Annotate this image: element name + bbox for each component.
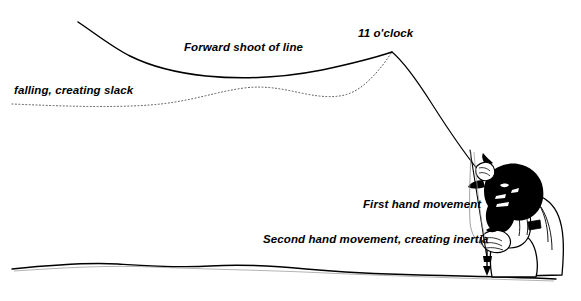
fly-line-dotted-slack [12,52,392,107]
fly-casting-diagram: Forward shoot of line 11 o'clock falling… [0,0,581,301]
ground-line-shadow [14,266,554,281]
angler-sleeve-patch [528,220,541,230]
label-first-hand-movement: First hand movement [363,199,481,211]
fly-line-descending-leg [392,52,478,170]
label-falling-creating-slack: falling, creating slack [14,85,133,97]
label-forward-shoot-of-line: Forward shoot of line [184,42,303,54]
angler-rod-hand-upper [476,162,495,180]
label-second-hand-movement: Second hand movement, creating inertia [263,234,489,246]
angler-figure [468,153,563,277]
label-eleven-oclock: 11 o'clock [358,28,413,40]
